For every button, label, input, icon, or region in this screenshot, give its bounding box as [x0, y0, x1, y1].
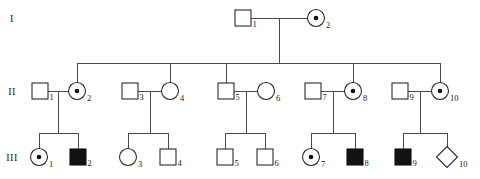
individual-id-label: 7 — [321, 159, 325, 169]
individual-iii-6[interactable]: 6 — [257, 149, 279, 168]
individual-symbols: 121234567891012345678910 — [31, 10, 468, 169]
carrier-dot-icon — [75, 89, 80, 94]
individual-id-label: 2 — [326, 20, 330, 30]
generation-label-ii: II — [8, 86, 16, 97]
individual-ii-7[interactable]: 7 — [305, 83, 327, 102]
male-square-symbol — [347, 149, 363, 165]
individual-id-label: 4 — [180, 93, 185, 103]
generation-labels: IIIIII — [6, 13, 18, 163]
generation-label-iii: III — [6, 152, 18, 163]
individual-iii-7[interactable]: 7 — [303, 149, 326, 169]
individual-id-label: 1 — [253, 19, 257, 29]
carrier-dot-icon — [309, 155, 314, 160]
pedigree-canvas: 121234567891012345678910 IIIIII — [0, 0, 480, 179]
individual-iii-9[interactable]: 9 — [395, 149, 417, 168]
individual-ii-10[interactable]: 10 — [432, 83, 459, 103]
male-square-symbol — [257, 149, 273, 165]
individual-id-label: 10 — [459, 159, 468, 169]
carrier-dot-icon — [37, 155, 42, 160]
individual-iii-2[interactable]: 2 — [70, 149, 92, 168]
male-square-symbol — [217, 149, 233, 165]
individual-id-label: 3 — [140, 92, 144, 102]
individual-id-label: 8 — [363, 93, 367, 103]
male-square-symbol — [235, 10, 251, 26]
individual-iii-1[interactable]: 1 — [31, 149, 54, 169]
individual-ii-6[interactable]: 6 — [258, 83, 281, 103]
individual-id-label: 7 — [323, 92, 327, 102]
individual-id-label: 9 — [413, 158, 417, 168]
female-circle-symbol — [162, 83, 179, 100]
male-square-symbol — [160, 149, 176, 165]
individual-ii-5[interactable]: 5 — [218, 83, 240, 102]
female-circle-symbol — [120, 149, 137, 166]
individual-i-1[interactable]: 1 — [235, 10, 257, 29]
male-square-symbol — [122, 83, 138, 99]
individual-id-label: 8 — [365, 158, 369, 168]
individual-ii-4[interactable]: 4 — [162, 83, 186, 103]
individual-id-label: 4 — [178, 158, 183, 168]
male-square-symbol — [392, 83, 408, 99]
individual-id-label: 1 — [49, 159, 53, 169]
individual-iii-8[interactable]: 8 — [347, 149, 369, 168]
individual-id-label: 9 — [410, 92, 414, 102]
individual-ii-9[interactable]: 9 — [392, 83, 414, 102]
individual-iii-10[interactable]: 10 — [437, 147, 468, 169]
individual-id-label: 5 — [235, 158, 239, 168]
generation-label-i: I — [10, 13, 14, 24]
individual-id-label: 2 — [87, 93, 91, 103]
individual-ii-2[interactable]: 2 — [69, 83, 92, 103]
male-square-symbol — [32, 83, 48, 99]
individual-id-label: 2 — [88, 158, 92, 168]
carrier-dot-icon — [314, 16, 319, 21]
individual-ii-8[interactable]: 8 — [345, 83, 368, 103]
carrier-dot-icon — [438, 89, 443, 94]
connector-lines — [39, 18, 447, 149]
female-circle-symbol — [258, 83, 275, 100]
individual-ii-3[interactable]: 3 — [122, 83, 144, 102]
individual-i-2[interactable]: 2 — [308, 10, 331, 30]
individual-id-label: 6 — [275, 158, 279, 168]
male-square-symbol — [218, 83, 234, 99]
individual-iii-3[interactable]: 3 — [120, 149, 143, 169]
individual-id-label: 10 — [450, 93, 459, 103]
individual-id-label: 1 — [50, 92, 54, 102]
individual-id-label: 5 — [236, 92, 240, 102]
male-square-symbol — [70, 149, 86, 165]
individual-iii-4[interactable]: 4 — [160, 149, 183, 168]
individual-id-label: 6 — [276, 93, 280, 103]
individual-iii-5[interactable]: 5 — [217, 149, 239, 168]
pedigree-chart: 121234567891012345678910 IIIIII — [0, 0, 480, 179]
male-square-symbol — [395, 149, 411, 165]
individual-ii-1[interactable]: 1 — [32, 83, 54, 102]
carrier-dot-icon — [351, 89, 356, 94]
unknown-sex-diamond-symbol — [437, 147, 458, 168]
male-square-symbol — [305, 83, 321, 99]
individual-id-label: 3 — [138, 159, 142, 169]
